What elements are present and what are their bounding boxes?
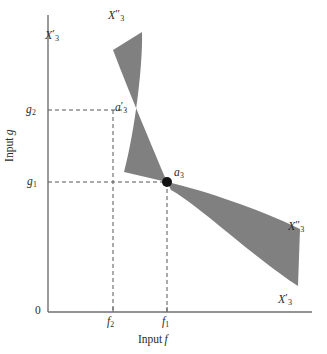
region-label-x3-prime-upper-sub: 3 [55,34,59,43]
region-label-x3-prime-upper: X′3 [45,28,59,43]
point-label-a3-prime-sub: 3 [123,106,127,115]
region-label-x3-prime-lower: X′3 [278,292,292,307]
y-axis-tick-label-g2-base: g [26,103,32,115]
axis-ticks [113,307,167,312]
point-label-a3: a3 [174,167,184,180]
region-label-x3-prime-lower-sub: 3 [288,298,292,307]
x-axis-tick-label-f1: f1 [162,316,169,329]
x-axis-title-text: Input [138,333,162,345]
y-axis-tick-label-g1: g1 [27,176,37,189]
region-label-x3-dprime-upper: X″3 [108,8,124,23]
point-label-a3-prime: a′3 [115,100,127,115]
x-axis-tick-label-f2: f2 [107,316,114,329]
x-axis-tick-label-f1-sub: 1 [165,320,169,329]
y-axis-title: Input g [4,114,16,178]
origin-label: 0 [35,305,41,317]
y-axis-tick-label-g1-sub: 1 [33,180,37,189]
x-axis-tick-label-f2-sub: 2 [110,320,114,329]
isoquant-figure: X′3 X″3 X″3 X′3 a′3 a3 g2 g1 f2 f1 0 Inp… [0,0,327,354]
y-axis-title-var: g [3,130,15,136]
x-axis-title: Input f [138,334,168,346]
x-axis-title-var: f [165,333,168,345]
point-marker-a3 [162,177,172,187]
y-axis-tick-label-g1-base: g [27,175,33,187]
region-label-x3-dprime-upper-sub: 3 [120,14,124,23]
point-label-a3-base: a [174,166,180,178]
point-label-a3-sub: 3 [180,171,184,180]
y-axis-tick-label-g2-sub: 2 [32,108,36,117]
region-label-x3-dprime-right-sub: 3 [300,225,304,234]
shaded-region-right-cone [167,182,300,286]
region-label-x3-dprime-right: X″3 [288,219,304,234]
y-axis-title-text: Input [3,138,15,162]
y-axis-tick-label-g2: g2 [26,104,36,117]
